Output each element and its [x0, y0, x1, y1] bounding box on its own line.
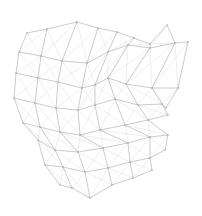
mesh-diagonal [58, 63, 87, 82]
mesh-diagonal [87, 63, 95, 85]
mesh-edge [133, 170, 152, 178]
mesh-edge [19, 52, 41, 56]
mesh-diagonal [16, 73, 35, 103]
mesh-diagonal [14, 98, 40, 127]
mesh-diagonal [90, 168, 108, 198]
mesh-edge [45, 165, 60, 185]
mesh-node [149, 136, 151, 138]
mesh-diagonal [14, 78, 38, 98]
mesh-edge [128, 45, 150, 48]
mesh-node [37, 77, 39, 79]
mesh-diagonal [85, 148, 103, 172]
mesh-diagonal [103, 148, 130, 162]
mesh-node [46, 28, 48, 30]
mesh-edge [167, 25, 175, 43]
mesh-edge [178, 42, 188, 88]
mesh-edge [38, 78, 58, 82]
mesh-node [161, 103, 163, 105]
mesh-edge [150, 135, 168, 137]
mesh-node [127, 44, 129, 46]
mesh-diagonal [82, 88, 95, 105]
mesh-node [62, 166, 64, 168]
mesh-node [149, 157, 151, 159]
mesh-edge [103, 143, 128, 148]
mesh-edge [78, 148, 103, 152]
mesh-diagonal [148, 120, 150, 137]
mesh-diagonal [115, 84, 126, 99]
mesh-node [149, 43, 151, 45]
mesh-edge [62, 61, 87, 63]
mesh-node [164, 149, 166, 151]
mesh-diagonal [125, 105, 138, 125]
mesh-edge [138, 104, 162, 105]
mesh-node [187, 41, 189, 43]
mesh-edge [72, 188, 90, 198]
mesh-node [39, 126, 41, 128]
mesh-diagonal [150, 135, 168, 158]
mesh-node [94, 104, 96, 106]
mesh-diagonal [38, 127, 40, 140]
mesh-node [132, 177, 134, 179]
mesh-node [124, 124, 126, 126]
mesh-node [133, 37, 135, 39]
mesh-node [84, 171, 86, 173]
mesh-diagonal [72, 172, 85, 188]
mesh-node [79, 134, 81, 136]
mesh-node [125, 83, 127, 85]
mesh-node [59, 184, 61, 186]
mesh-edge [128, 143, 130, 162]
mesh-diagonals [14, 22, 188, 198]
mesh-node [114, 98, 116, 100]
mesh-edge [38, 56, 41, 78]
mesh-edge [108, 45, 128, 78]
mesh-node [107, 77, 109, 79]
mesh-diagonal [45, 150, 55, 165]
mesh-edge [77, 22, 98, 28]
mesh-edge [103, 148, 108, 168]
mesh-node [44, 164, 46, 166]
mesh-edge [100, 125, 125, 130]
mesh-node [55, 107, 57, 109]
mesh-diagonal [152, 42, 188, 88]
mesh-diagonal [78, 135, 80, 152]
mesh-edge [23, 123, 38, 140]
mesh-node [37, 139, 39, 141]
mesh-node [94, 84, 96, 86]
mesh-edge [78, 110, 80, 135]
mesh-node [57, 81, 59, 83]
mesh-node [151, 87, 153, 89]
mesh-edge [14, 98, 35, 103]
mesh-edge [108, 168, 112, 185]
mesh-diagonal [80, 105, 95, 135]
mesh-diagonal [175, 43, 178, 88]
mesh-edge [128, 38, 134, 45]
mesh-edge [150, 158, 152, 170]
mesh-diagonal [150, 25, 167, 48]
mesh-edge [152, 88, 162, 104]
mesh-edge [148, 115, 168, 120]
mesh-edge [14, 98, 23, 123]
mesh-node [99, 129, 101, 131]
mesh-diagonal [55, 132, 60, 150]
mesh-diagonal [63, 152, 78, 167]
mesh-node [116, 31, 118, 33]
mesh-diagonal [138, 88, 152, 105]
mesh-diagonal [60, 167, 63, 185]
mesh-node [137, 104, 139, 106]
mesh-edge [58, 61, 62, 82]
wireframe-mesh [0, 0, 202, 216]
mesh-node [107, 51, 109, 53]
mesh-edge [62, 22, 77, 61]
mesh-diagonal [40, 108, 56, 127]
mesh-node [166, 24, 168, 26]
mesh-node [149, 47, 151, 49]
mesh-diagonal [108, 48, 150, 78]
mesh-edge [98, 28, 117, 32]
mesh-edge [56, 108, 78, 110]
mesh-edge [63, 167, 72, 188]
mesh-edge [130, 162, 133, 178]
mesh-node [22, 122, 24, 124]
mesh-diagonal [41, 22, 77, 56]
mesh-diagonal [47, 29, 62, 61]
mesh-edge [85, 168, 108, 172]
